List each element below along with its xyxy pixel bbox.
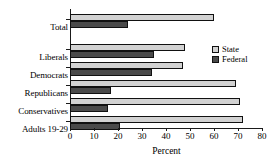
x-tick-label-40: 40 xyxy=(162,132,171,141)
chart-legend: State Federal xyxy=(212,44,248,64)
bar-state-democrats xyxy=(70,62,183,69)
bar-federal-total xyxy=(70,21,128,28)
bar-state-liberals xyxy=(70,44,185,51)
category-label-republicans: Republicans xyxy=(0,89,68,98)
bar-group-democrats xyxy=(70,62,262,77)
bar-state-conservatives xyxy=(70,98,240,105)
legend-swatch-state-icon xyxy=(212,46,219,53)
x-axis-title: Percent xyxy=(70,146,263,156)
category-label-liberals: Liberals xyxy=(0,53,68,62)
category-label-adults-19-29: Adults 19-29 xyxy=(0,125,68,134)
x-tick-label-60: 60 xyxy=(210,132,219,141)
legend-label-federal: Federal xyxy=(222,54,248,64)
x-tick-label-30: 30 xyxy=(138,132,147,141)
x-tick-label-50: 50 xyxy=(186,132,195,141)
bar-group-republicans xyxy=(70,80,262,95)
horizontal-bar-chart: Total Liberals Democrats Republicans Con… xyxy=(0,0,275,163)
bar-state-republicans xyxy=(70,80,236,87)
category-label-total: Total xyxy=(0,23,68,32)
legend-swatch-federal-icon xyxy=(212,56,219,63)
bar-federal-adults-19-29 xyxy=(70,123,120,130)
bar-federal-republicans xyxy=(70,87,111,94)
x-tick-label-70: 70 xyxy=(234,132,243,141)
legend-item-federal: Federal xyxy=(212,54,248,64)
plot-area xyxy=(70,10,262,127)
category-axis-labels: Total Liberals Democrats Republicans Con… xyxy=(0,10,68,127)
x-tick-label-20: 20 xyxy=(114,132,123,141)
bar-group-total xyxy=(70,14,262,29)
legend-label-state: State xyxy=(222,44,239,54)
bar-federal-liberals xyxy=(70,51,154,58)
x-tick-label-80: 80 xyxy=(258,132,267,141)
bar-federal-conservatives xyxy=(70,105,108,112)
x-tick-label-10: 10 xyxy=(90,132,99,141)
bar-group-conservatives xyxy=(70,98,262,113)
x-tick-label-0: 0 xyxy=(68,132,73,141)
category-label-democrats: Democrats xyxy=(0,71,68,80)
bar-state-total xyxy=(70,14,214,21)
bar-federal-democrats xyxy=(70,69,152,76)
legend-item-state: State xyxy=(212,44,248,54)
bar-state-adults-19-29 xyxy=(70,116,243,123)
category-label-conservatives: Conservatives xyxy=(0,107,68,116)
